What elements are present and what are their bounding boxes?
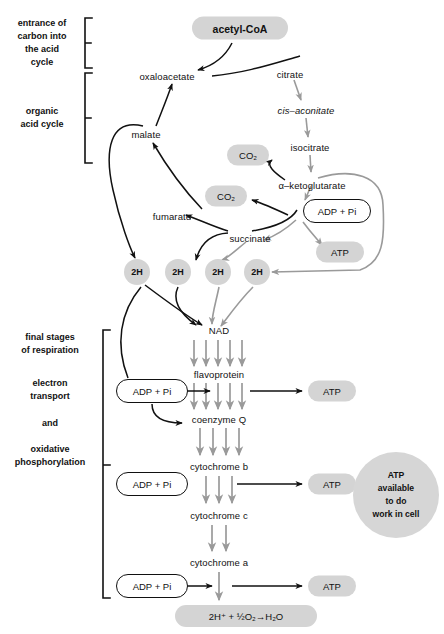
node-nad[interactable]: NAD: [209, 325, 229, 336]
pill-co2-alpha-ketoglutarate[interactable]: CO₂: [205, 186, 247, 207]
node-fumarate[interactable]: fumarate: [153, 211, 191, 222]
node-oxaloacetate[interactable]: oxaloacetate: [139, 71, 194, 82]
node-cytochrome-c[interactable]: cytochrome c: [190, 510, 248, 521]
pill-atp-cytochrome-a[interactable]: ATP: [308, 576, 356, 597]
side-label-electron-transport: electron transport: [30, 377, 70, 403]
hydrogen-carrier-4[interactable]: 2H: [244, 259, 270, 285]
node-isocitrate[interactable]: isocitrate: [290, 142, 329, 153]
node-acetyl-coa[interactable]: acetyl-CoA: [192, 17, 288, 40]
side-label-organic: organic acid cycle: [20, 105, 63, 131]
side-label-entrance: entrance of carbon into the acid cycle: [18, 17, 67, 69]
pill-atp-flavoprotein[interactable]: ATP: [308, 381, 356, 402]
diagram-connectors: [0, 0, 444, 634]
adp-pi-cycle[interactable]: ADP + Pi: [303, 199, 371, 223]
side-label-oxidative-phosphorylation: oxidative phosphorylation: [15, 443, 86, 469]
pill-atp-cytochrome-b[interactable]: ATP: [308, 474, 356, 495]
node-cis-aconitate[interactable]: cis–aconitate: [278, 105, 335, 116]
pill-water-product[interactable]: 2H⁺ + ½O₂→H₂O: [175, 605, 317, 627]
hydrogen-carrier-2[interactable]: 2H: [165, 259, 191, 285]
side-label-final-stages: final stages of respiration: [21, 331, 79, 357]
adp-pi-cytochrome-b[interactable]: ADP + Pi: [116, 472, 188, 496]
adp-pi-cytochrome-a[interactable]: ADP + Pi: [116, 574, 188, 598]
side-label-and: and: [42, 417, 58, 430]
node-citrate[interactable]: citrate: [277, 69, 304, 80]
pill-atp-cycle[interactable]: ATP: [316, 242, 364, 263]
node-alpha-ketoglutarate[interactable]: α–ketoglutarate: [278, 180, 345, 191]
node-coenzyme-q[interactable]: coenzyme Q: [192, 414, 246, 425]
hydrogen-carrier-1[interactable]: 2H: [124, 259, 150, 285]
node-cytochrome-a[interactable]: cytochrome a: [190, 557, 248, 568]
node-cytochrome-b[interactable]: cytochrome b: [190, 461, 248, 472]
pill-co2-isocitrate[interactable]: CO₂: [227, 145, 269, 166]
hydrogen-carrier-3[interactable]: 2H: [205, 259, 231, 285]
atp-pool-circle[interactable]: ATP available to do work in cell: [353, 452, 439, 538]
adp-pi-flavoprotein[interactable]: ADP + Pi: [116, 379, 188, 403]
node-succinate[interactable]: succinate: [229, 233, 270, 244]
respiration-diagram: entrance of carbon into the acid cycle o…: [0, 0, 444, 634]
node-flavoprotein[interactable]: flavoprotein: [194, 369, 244, 380]
node-malate[interactable]: malate: [131, 129, 160, 140]
